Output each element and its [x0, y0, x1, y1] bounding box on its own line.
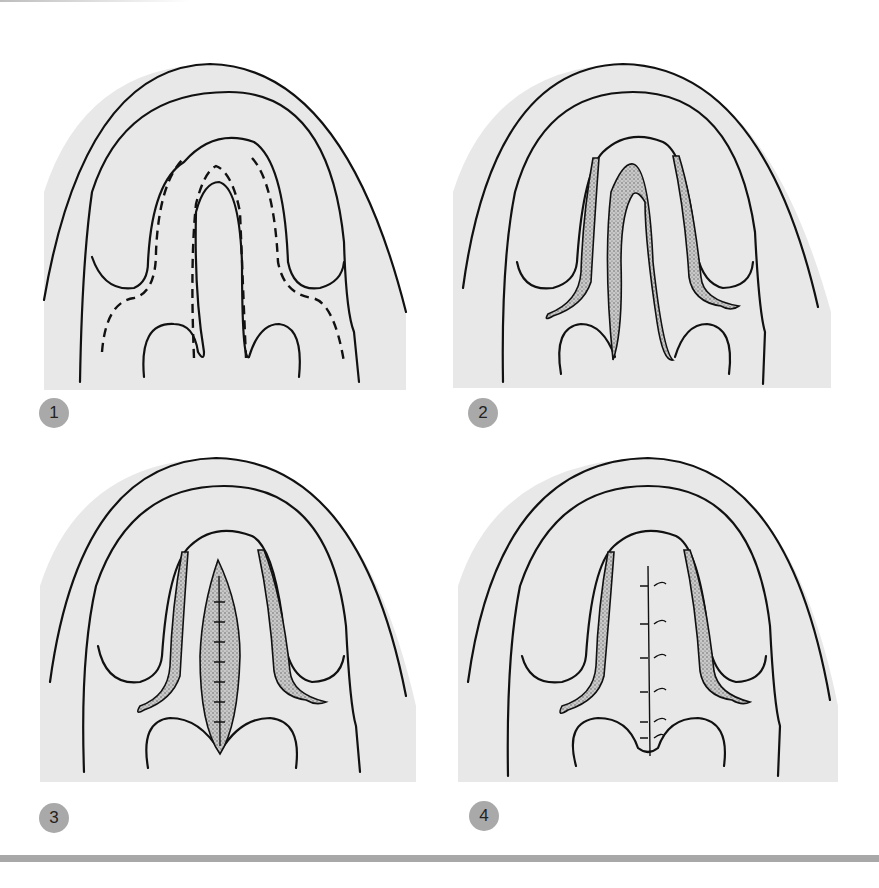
panel-3 — [40, 456, 416, 784]
panel-2 — [453, 62, 831, 390]
panel-badge-1: 1 — [39, 398, 69, 428]
palate-diagram-3 — [40, 456, 416, 784]
panel-badge-3: 3 — [39, 803, 69, 833]
palate-diagram-1 — [44, 62, 406, 392]
top-rule — [0, 0, 190, 2]
bottom-rule — [0, 855, 879, 862]
panel-badge-2: 2 — [468, 398, 498, 428]
panel-4 — [458, 456, 838, 784]
palate-diagram-2 — [453, 62, 831, 390]
panel-1 — [44, 62, 406, 392]
panel-badge-4: 4 — [469, 801, 499, 831]
palate-diagram-4 — [458, 456, 838, 784]
